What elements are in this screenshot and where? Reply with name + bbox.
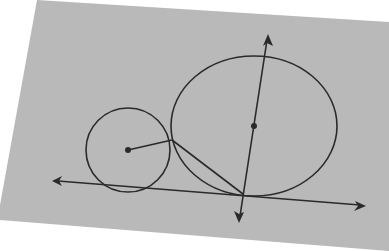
large-circle-center-dot (251, 123, 257, 129)
geometry-diagram (0, 0, 389, 251)
paper-card (0, 0, 389, 251)
diagram-canvas (0, 0, 389, 251)
small-circle-center-dot (125, 147, 131, 153)
